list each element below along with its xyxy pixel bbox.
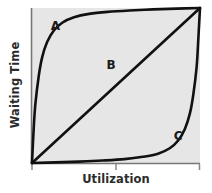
curve-label-b: B: [106, 58, 115, 72]
chart-plot-svg: A B C: [0, 0, 212, 193]
x-axis-label: Utilization: [32, 172, 200, 186]
curve-label-a: A: [51, 19, 61, 33]
curve-label-c: C: [174, 129, 183, 143]
y-axis-label: Waiting Time: [8, 42, 22, 129]
chart-figure: A B C Waiting Time Utilization: [0, 0, 212, 193]
y-axis-label-container: Waiting Time: [0, 0, 30, 170]
